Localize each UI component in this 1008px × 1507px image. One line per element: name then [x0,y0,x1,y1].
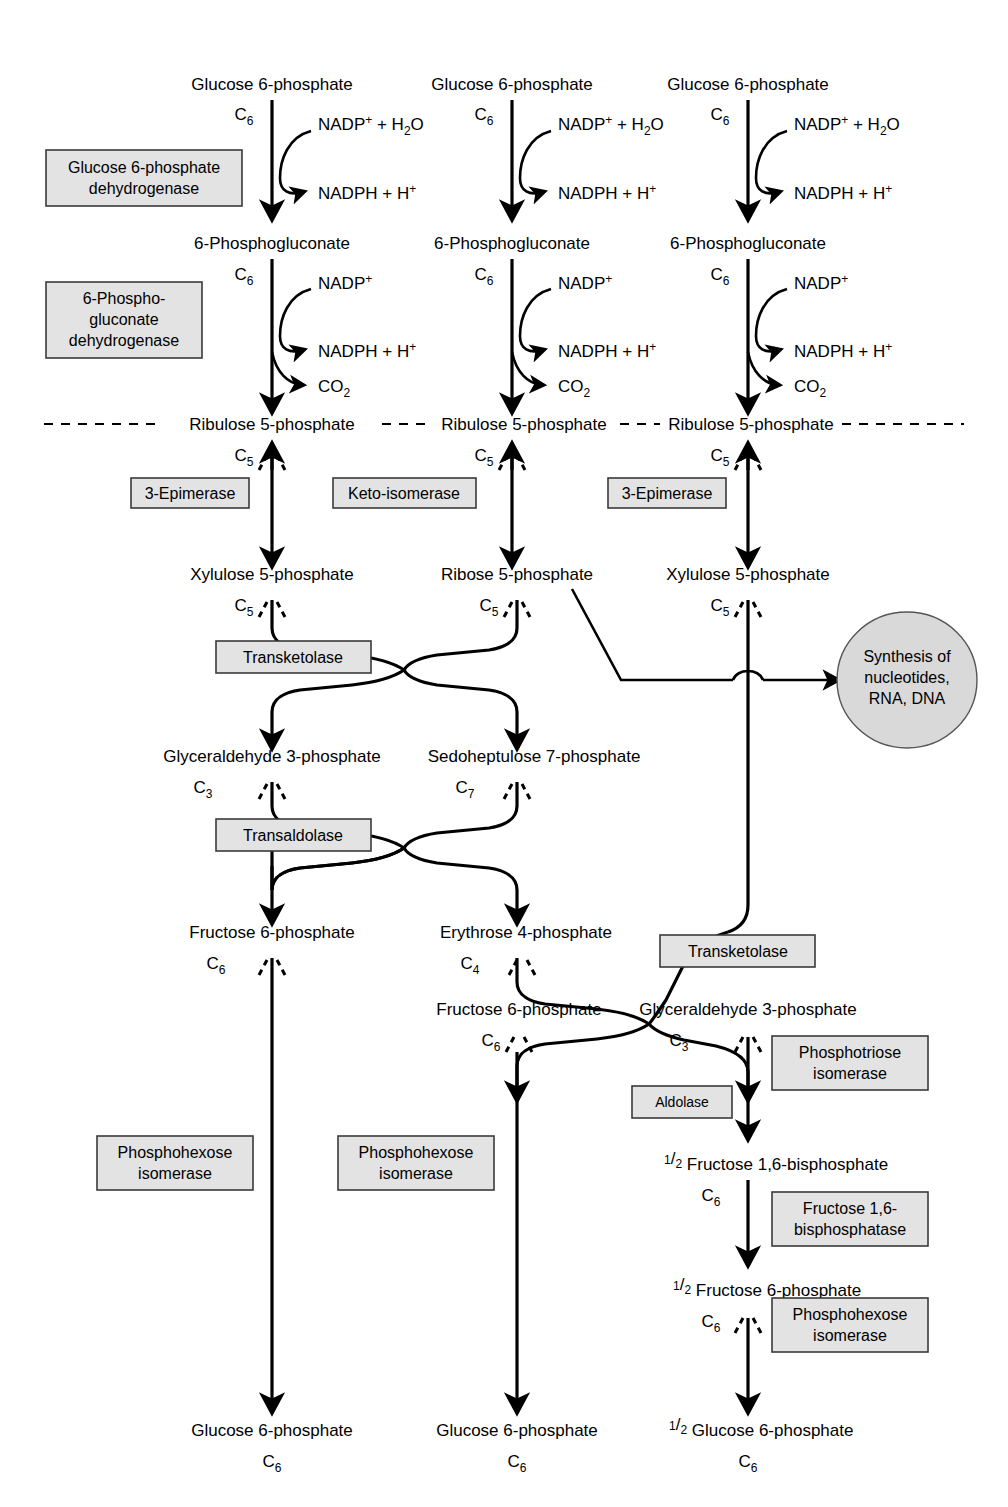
enzyme-box-fbpase[interactable]: Fructose 1,6- bisphosphatase [772,1192,928,1246]
metabolite-label-gap-col3: Glyceraldehyde 3-phosphate [639,1000,856,1019]
reversible-marker-ru5p-group [259,447,761,470]
enzyme-label-transketolase-2: Transketolase [688,943,788,960]
carbon-label-fbp-c6: C6 [702,1186,721,1209]
metabolite-label-bottom-half-glucose6p: 1/2 Glucose 6-phosphate [669,1415,853,1440]
enzyme-label-phosphohexose-col1-line2: isomerase [138,1165,212,1182]
enzyme-box-6pg-dehydrogenase[interactable]: 6-Phospho- gluconate dehydrogenase [46,282,202,358]
metabolite-label-ribulose5p-col2: Ribulose 5-phosphate [441,415,606,434]
cofactor-labels-row2: NADP+ NADP+ NADP+ NADPH + H+ NADPH + H+ … [318,272,892,400]
metabolite-label-erythrose4p: Erythrose 4-phosphate [440,923,612,942]
metabolite-label-6pg-col1: 6-Phosphogluconate [194,234,350,253]
sink-label-line2: nucleotides, [864,669,949,686]
enzyme-label-fbpase-line2: bisphosphatase [794,1221,906,1238]
enzyme-box-keto-isomerase[interactable]: Keto-isomerase [333,478,476,508]
metabolite-label-glucose6p-col2: Glucose 6-phosphate [431,75,593,94]
long-vertical-col3-xu5p-to-transketolase2 [728,600,748,932]
enzyme-box-phosphohexose-isomerase-col1[interactable]: Phosphohexose isomerase [97,1136,253,1190]
enzyme-label-pgd-line2: gluconate [89,311,158,328]
metabolite-label-bottom-glucose6p-col2: Glucose 6-phosphate [436,1421,598,1440]
cofactor-nadph-h-row2-col2: NADPH + H+ [558,340,656,361]
reversible-marker-pentose-group [259,602,761,617]
metabolite-label-ribulose5p-col3: Ribulose 5-phosphate [668,415,833,434]
metabolite-label-6pg-col2: 6-Phosphogluconate [434,234,590,253]
metabolite-label-ribose5p-col2: Ribose 5-phosphate [441,565,593,584]
enzyme-label-phosphohexose-col3-line2: isomerase [813,1327,887,1344]
cofactor-arc-group-row2 [272,289,787,385]
carbon-label-bottom-c6-col3: C6 [739,1452,758,1475]
cofactor-nadp-h2o-col1: NADP+ + H2O [318,113,424,138]
metabolite-label-xylulose5p-col3: Xylulose 5-phosphate [666,565,830,584]
pentose-row-labels: Xylulose 5-phosphate Ribose 5-phosphate … [190,565,830,619]
carbon-label-r5p-c5-col2: C5 [480,596,499,619]
metabolite-label-sedoheptulose7p: Sedoheptulose 7-phosphate [428,747,641,766]
reversible-marker-f6p-e4p [259,960,535,975]
pentose-phosphate-pathway-diagram: Glucose 6-phosphate Glucose 6-phosphate … [0,0,1008,1507]
enzyme-label-aldolase: Aldolase [655,1094,709,1110]
metabolite-label-gap-col1: Glyceraldehyde 3-phosphate [163,747,380,766]
ribulose5p-divider-row: Ribulose 5-phosphate Ribulose 5-phosphat… [44,415,964,469]
enzyme-box-phosphotriose-isomerase[interactable]: Phosphotriose isomerase [772,1036,928,1090]
sink-label-line1: Synthesis of [863,648,951,665]
carbon-label-half-f6p-c6: C6 [702,1312,721,1335]
carbon-label-c6-col2: C6 [475,105,494,128]
cofactor-nadp-col3: NADP+ [794,272,848,293]
enzyme-label-g6pd-line1: Glucose 6-phosphate [68,159,220,176]
metabolite-label-glucose6p-col3: Glucose 6-phosphate [667,75,829,94]
cofactor-nadph-h-row2-col3: NADPH + H+ [794,340,892,361]
enzyme-label-epimerase-col1: 3-Epimerase [145,485,236,502]
metabolite-label-glucose6p-col1: Glucose 6-phosphate [191,75,353,94]
f6p-e4p-row-labels: Fructose 6-phosphate Erythrose 4-phospha… [189,923,612,977]
carbon-label-f6p-c6-col2: C6 [482,1031,501,1054]
enzyme-box-3-epimerase-col1[interactable]: 3-Epimerase [131,478,249,508]
enzyme-box-transketolase-1[interactable]: Transketolase [216,641,371,673]
enzyme-box-transaldolase[interactable]: Transaldolase [216,819,371,851]
enzyme-label-phosphohexose-col3-line1: Phosphohexose [793,1306,908,1323]
enzyme-label-phosphotriose-line1: Phosphotriose [799,1044,901,1061]
enzyme-box-phosphohexose-isomerase-col3[interactable]: Phosphohexose isomerase [772,1298,928,1352]
carbon-label-bottom-c6-col2: C6 [508,1452,527,1475]
enzyme-box-g6p-dehydrogenase[interactable]: Glucose 6-phosphate dehydrogenase [46,150,242,206]
enzyme-box-aldolase[interactable]: Aldolase [632,1086,732,1118]
carbon-label-c6-col1: C6 [235,105,254,128]
enzyme-box-phosphohexose-isomerase-col2[interactable]: Phosphohexose isomerase [338,1136,494,1190]
branch-to-nucleotide-synthesis [572,589,836,680]
row-glucose6p-labels: Glucose 6-phosphate Glucose 6-phosphate … [191,75,829,128]
cofactor-nadph-h-col1: NADPH + H+ [318,182,416,203]
metabolite-label-half-fbp: 1/2 Fructose 1,6-bisphosphate [664,1149,888,1174]
carbon-label-e4p-c4: C4 [461,954,480,977]
carbon-label-ru5p-c5-col3: C5 [711,446,730,469]
nucleotide-synthesis-sink[interactable]: Synthesis of nucleotides, RNA, DNA [837,612,977,748]
enzyme-label-epimerase-col3: 3-Epimerase [622,485,713,502]
cofactor-nadph-h-col2: NADPH + H+ [558,182,656,203]
enzyme-label-fbpase-line1: Fructose 1,6- [803,1200,897,1217]
cofactor-nadph-h-row2-col1: NADPH + H+ [318,340,416,361]
cofactor-labels-row1: NADP+ + H2O NADP+ + H2O NADP+ + H2O NADP… [318,113,900,203]
reaction-arrow-ru5p-to-pentose [272,455,748,563]
carbon-label-ru5p-c5-col1: C5 [235,446,254,469]
cofactor-nadp-h2o-col2: NADP+ + H2O [558,113,664,138]
cofactor-nadp-col2: NADP+ [558,272,612,293]
enzyme-label-transketolase-1: Transketolase [243,649,343,666]
cofactor-nadp-h2o-col3: NADP+ + H2O [794,113,900,138]
cofactor-nadph-h-col3: NADPH + H+ [794,182,892,203]
carbon-label-6pg-c6-col1: C6 [235,265,254,288]
metabolite-label-6pg-col3: 6-Phosphogluconate [670,234,826,253]
enzyme-box-3-epimerase-col3[interactable]: 3-Epimerase [608,478,726,508]
carbon-label-s7p-c7: C7 [456,778,475,801]
bottom-row-labels: Glucose 6-phosphate Glucose 6-phosphate … [191,1415,853,1475]
enzyme-label-phosphohexose-col1-line1: Phosphohexose [118,1144,233,1161]
enzyme-box-transketolase-2[interactable]: Transketolase [660,935,815,967]
reversible-marker-gap-s7p [259,784,530,799]
metabolite-label-xylulose5p-col1: Xylulose 5-phosphate [190,565,354,584]
carbon-label-xu5p-c5-col3: C5 [711,596,730,619]
carbon-label-c6-col3: C6 [711,105,730,128]
gap-s7p-row-labels: Glyceraldehyde 3-phosphate Sedoheptulose… [163,747,640,801]
metabolite-label-half-f6p: 1/2 Fructose 6-phosphate [673,1275,861,1300]
metabolite-label-ribulose5p-col1: Ribulose 5-phosphate [189,415,354,434]
enzyme-label-g6pd-line2: dehydrogenase [89,180,199,197]
carbon-label-bottom-c6-col1: C6 [263,1452,282,1475]
enzyme-label-phosphohexose-col2-line1: Phosphohexose [359,1144,474,1161]
cofactor-co2-col2: CO2 [558,377,591,400]
cofactor-co2-col1: CO2 [318,377,351,400]
row-6pg-labels: 6-Phosphogluconate 6-Phosphogluconate 6-… [194,234,826,288]
